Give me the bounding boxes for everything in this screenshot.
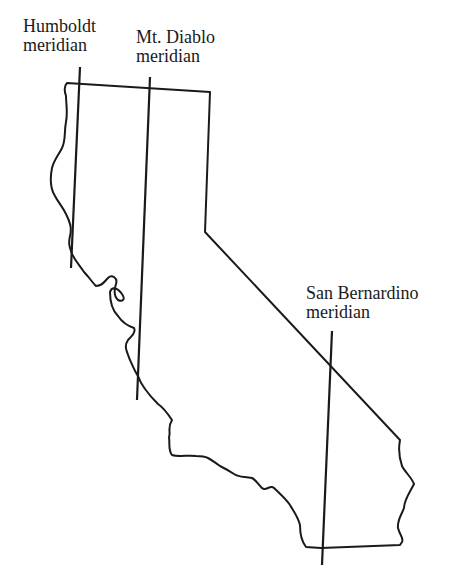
san-bernardino-meridian-line [322,331,332,565]
san-bernardino-meridian-label: San Bernardino meridian [306,284,418,322]
humboldt-suffix: meridian [23,36,96,55]
mt-diablo-meridian-line [137,77,150,400]
san-bernardino-name: San Bernardino [306,284,418,303]
san-bernardino-suffix: meridian [306,303,418,322]
humboldt-meridian-line [71,67,80,268]
humboldt-meridian-label: Humboldt meridian [23,17,96,55]
mt-diablo-name: Mt. Diablo [136,28,215,47]
mt-diablo-meridian-label: Mt. Diablo meridian [136,28,215,66]
mt-diablo-suffix: meridian [136,47,215,66]
humboldt-name: Humboldt [23,17,96,36]
